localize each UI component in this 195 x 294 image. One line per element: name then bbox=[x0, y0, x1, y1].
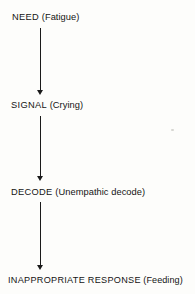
arrow-shaft bbox=[40, 28, 41, 91]
arrow-shaft bbox=[40, 202, 41, 266]
flow-arrow-signal-to-decode bbox=[37, 116, 44, 182]
arrow-head-icon bbox=[37, 176, 43, 181]
flowchart-figure: NEED (Fatigue) SIGNAL (Crying) DECODE (U… bbox=[0, 0, 195, 294]
arrow-head-icon bbox=[37, 265, 43, 270]
flow-node-decode-term: DECODE bbox=[11, 187, 53, 197]
flow-node-response-term: INAPPROPRIATE RESPONSE bbox=[8, 275, 141, 285]
flow-node-signal: SIGNAL (Crying) bbox=[11, 100, 83, 111]
flow-node-need-term: NEED bbox=[12, 12, 39, 22]
scan-artifact-speck bbox=[171, 129, 174, 131]
flow-node-need: NEED (Fatigue) bbox=[12, 12, 79, 23]
arrow-shaft bbox=[40, 116, 41, 177]
flow-node-need-detail: (Fatigue) bbox=[42, 12, 80, 22]
flow-arrow-decode-to-response bbox=[37, 202, 44, 271]
flow-arrow-need-to-signal bbox=[37, 28, 44, 96]
flow-node-decode-detail: (Unempathic decode) bbox=[55, 187, 145, 197]
flow-node-signal-detail: (Crying) bbox=[50, 100, 83, 110]
flow-node-decode: DECODE (Unempathic decode) bbox=[11, 187, 145, 198]
flow-node-response: INAPPROPRIATE RESPONSE (Feeding) bbox=[8, 275, 183, 286]
arrow-head-icon bbox=[37, 90, 43, 95]
flow-node-response-detail: (Feeding) bbox=[143, 275, 182, 285]
flow-node-signal-term: SIGNAL bbox=[11, 100, 47, 110]
